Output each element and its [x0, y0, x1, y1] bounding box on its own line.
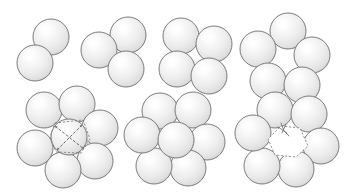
sphere — [291, 96, 327, 132]
sphere — [163, 18, 199, 54]
center-sphere — [158, 122, 194, 158]
center-sphere — [51, 119, 87, 155]
sphere — [124, 117, 160, 153]
sphere — [196, 26, 232, 62]
sphere — [82, 110, 118, 146]
sphere — [108, 51, 144, 87]
sphere — [240, 31, 276, 67]
figure-canvas — [0, 0, 346, 195]
sphere — [235, 115, 271, 151]
sphere — [17, 130, 53, 166]
sphere-packing-figure: Sphere packing cluster configurations — [0, 0, 346, 195]
sphere — [17, 45, 53, 81]
sphere — [191, 58, 227, 94]
sphere — [159, 51, 195, 87]
clusters-layer — [17, 13, 339, 188]
